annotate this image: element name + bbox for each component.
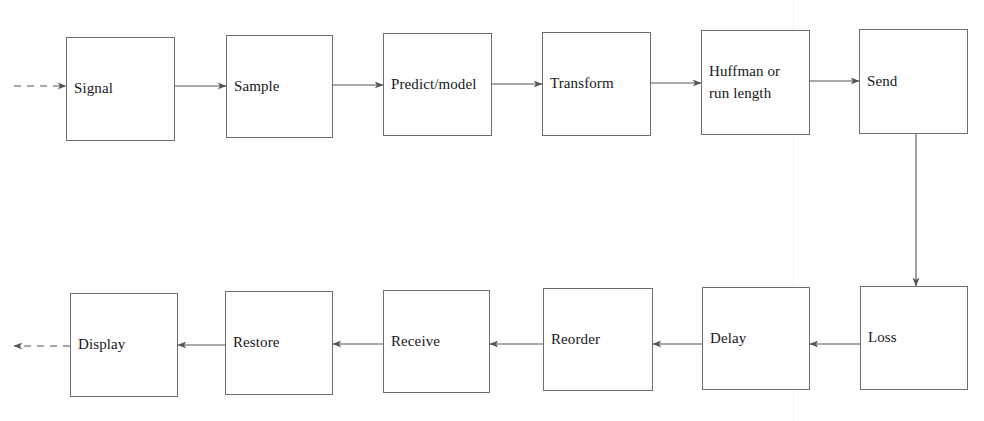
node-label-huffman: Huffman or run length bbox=[702, 61, 780, 104]
node-box-predict[interactable]: Predict/model bbox=[383, 33, 492, 136]
node-label-send: Send bbox=[860, 71, 897, 92]
node-box-reorder[interactable]: Reorder bbox=[543, 288, 653, 391]
node-label-receive: Receive bbox=[384, 331, 440, 352]
node-label-sample: Sample bbox=[227, 76, 280, 97]
node-label-loss: Loss bbox=[861, 327, 897, 348]
node-box-restore[interactable]: Restore bbox=[225, 291, 333, 395]
node-label-restore: Restore bbox=[226, 332, 280, 353]
node-box-huffman[interactable]: Huffman or run length bbox=[701, 30, 810, 135]
node-box-display[interactable]: Display bbox=[70, 293, 178, 397]
node-label-delay: Delay bbox=[703, 328, 746, 349]
flowchart-canvas: SignalSamplePredict/modelTransformHuffma… bbox=[0, 0, 984, 421]
node-label-reorder: Reorder bbox=[544, 329, 600, 350]
node-box-transform[interactable]: Transform bbox=[542, 32, 651, 136]
node-box-signal[interactable]: Signal bbox=[66, 37, 175, 141]
node-box-loss[interactable]: Loss bbox=[860, 286, 968, 390]
node-box-delay[interactable]: Delay bbox=[702, 287, 810, 390]
node-label-signal: Signal bbox=[67, 78, 113, 99]
node-label-transform: Transform bbox=[543, 73, 614, 94]
node-box-sample[interactable]: Sample bbox=[226, 35, 333, 138]
node-label-predict: Predict/model bbox=[384, 74, 476, 95]
node-box-receive[interactable]: Receive bbox=[383, 290, 490, 393]
node-label-display: Display bbox=[71, 334, 125, 355]
node-box-send[interactable]: Send bbox=[859, 29, 968, 134]
